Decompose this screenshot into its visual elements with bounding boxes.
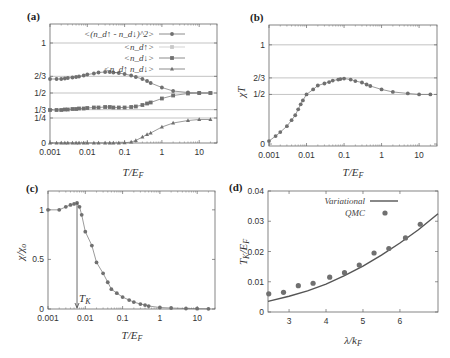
data-point (140, 77, 144, 81)
data-point (391, 90, 395, 94)
panel-d-label: (d) (229, 181, 243, 194)
data-point (85, 106, 89, 110)
panel-d-ylabel: TK/EF (237, 239, 251, 265)
x-tick-label: 0.01 (298, 150, 315, 160)
x-tick-label: 0.1 (117, 313, 129, 323)
series-line (268, 214, 438, 302)
panel-a: (a) 0.0010.010.111001/41/31/22/31 <(n_d↑… (27, 10, 217, 180)
data-point (77, 107, 81, 111)
data-point (64, 205, 68, 209)
panel-b-ylabel: χT (235, 86, 247, 99)
data-point (140, 103, 144, 107)
data-point (331, 79, 335, 83)
data-point (349, 78, 353, 82)
data-point (92, 72, 96, 76)
data-point (342, 77, 346, 81)
x-tick-label: 6 (398, 316, 403, 326)
data-point (129, 105, 133, 109)
y-tick-label: 2/3 (34, 71, 46, 81)
y-tick-label: 1/2 (253, 89, 265, 99)
legend-entry-qmc: QMC (345, 208, 366, 218)
data-point (138, 302, 142, 306)
data-point (169, 306, 173, 310)
figure: (a) 0.0010.010.111001/41/31/22/31 <(n_d↑… (0, 0, 450, 358)
panel-b-gridlines (269, 45, 437, 95)
data-point (92, 106, 96, 110)
panel-a-series (48, 70, 212, 144)
data-point (360, 81, 364, 85)
panel-b-series (267, 77, 432, 143)
x-tick-label: 5 (361, 316, 366, 326)
y-tick-label: 0 (39, 304, 44, 314)
data-point (59, 77, 63, 81)
panel-d-xlabel: λ/kF (343, 334, 362, 348)
data-point (108, 105, 112, 109)
data-point (149, 101, 153, 105)
data-point (323, 82, 327, 86)
data-point (160, 97, 164, 101)
panel-b-xlabel: T/EF (343, 166, 364, 180)
series-line (50, 120, 210, 144)
data-point (296, 107, 300, 111)
data-point (127, 298, 131, 302)
data-point (301, 98, 305, 102)
data-point (195, 307, 199, 311)
data-point (66, 76, 70, 80)
data-point (71, 107, 75, 111)
data-point (267, 139, 271, 143)
panel-d-legend: VariationalQMC (324, 196, 398, 218)
y-tick-label: 0 (260, 139, 265, 149)
y-tick-label: 2/3 (253, 73, 265, 83)
data-point (357, 263, 362, 268)
data-point (69, 203, 73, 207)
data-point (97, 106, 101, 110)
data-point (417, 93, 421, 97)
data-point (380, 88, 384, 92)
data-point (55, 108, 59, 112)
data-point (403, 235, 408, 240)
data-point (266, 291, 271, 296)
data-point (129, 74, 133, 78)
data-point (158, 306, 162, 310)
data-point (171, 94, 175, 98)
data-point (97, 71, 101, 75)
data-point (109, 287, 113, 291)
data-point (339, 77, 343, 81)
data-point (170, 32, 174, 36)
legend-entry: <(n_d↑ - n_d↓)^2> (84, 29, 154, 39)
y-tick-label: 0.04 (247, 186, 264, 196)
series-line (48, 203, 208, 309)
data-point (281, 290, 286, 295)
tk-label: TK (79, 292, 91, 306)
y-tick-label: 0.03 (247, 216, 264, 226)
data-point (290, 118, 294, 122)
data-point (342, 270, 347, 275)
x-tick-label: 0.001 (37, 313, 59, 323)
x-tick-label: 4 (324, 316, 329, 326)
data-point (134, 105, 138, 109)
panel-d-ticks: 345600.010.020.030.04 (247, 186, 438, 326)
panel-d-series (266, 214, 438, 302)
data-point (353, 79, 357, 83)
y-tick-label: 0 (41, 138, 46, 148)
data-point (147, 304, 151, 308)
x-tick-label: 3 (287, 316, 292, 326)
data-point (274, 134, 278, 138)
data-point (327, 275, 332, 280)
x-tick-label: 0.001 (39, 147, 61, 157)
data-point (101, 271, 105, 275)
data-point (170, 56, 174, 60)
data-point (117, 106, 121, 110)
data-point (77, 75, 81, 79)
data-point (143, 303, 147, 307)
legend-entry: <n_d↑ n_d↓> (104, 64, 154, 74)
data-point (170, 45, 174, 49)
data-point (418, 222, 423, 227)
data-point (123, 106, 127, 110)
data-point (197, 91, 201, 95)
data-point (48, 108, 52, 112)
panel-c-frame (48, 191, 215, 309)
data-point (171, 89, 175, 93)
data-point (134, 75, 138, 79)
data-point (55, 77, 59, 81)
